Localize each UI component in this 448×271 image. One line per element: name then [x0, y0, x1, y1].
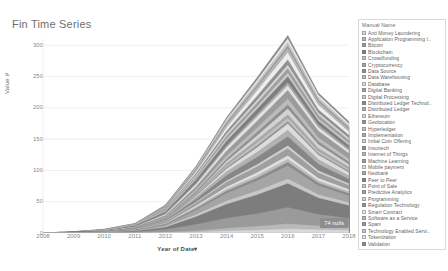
legend-swatch-icon	[362, 127, 366, 131]
legend-item-label: Anti Money Laundering	[368, 30, 420, 36]
legend-item-label: Database	[368, 81, 390, 87]
x-axis-tick-label[interactable]: 2014	[220, 233, 233, 239]
visualization-root: Fin Time Series Value # 0501001502002503…	[0, 0, 448, 271]
legend-swatch-icon	[362, 101, 366, 105]
legend-swatch-icon	[362, 114, 366, 118]
page-title: Fin Time Series	[12, 18, 91, 30]
legend-swatch-icon	[362, 88, 366, 92]
legend-item-label: Data Source	[368, 68, 396, 74]
legend-swatch-icon	[362, 120, 366, 124]
legend-item-label: Validation	[368, 241, 390, 247]
legend-swatch-icon	[362, 69, 366, 73]
chart-panel: Fin Time Series Value # 0501001502002503…	[0, 0, 355, 271]
sort-descending-icon[interactable]: ▾	[194, 246, 197, 252]
legend-swatch-icon	[362, 159, 366, 163]
legend-item-label: Software as a Service	[368, 215, 418, 221]
legend-item[interactable]: Validation	[361, 240, 443, 246]
legend-swatch-icon	[362, 165, 366, 169]
legend-swatch-icon	[362, 139, 366, 143]
legend-item-label: Technology Enabled Servi..	[368, 228, 430, 234]
legend-item-label: Internet of Things	[368, 151, 408, 157]
legend-item-label: Programming	[368, 196, 399, 202]
legend-items: Anti Money LaunderingApplication Program…	[361, 30, 443, 247]
legend-swatch-icon	[362, 50, 366, 54]
legend-swatch-icon	[362, 37, 366, 41]
legend-swatch-icon	[362, 190, 366, 194]
legend-item-label: Ethereum	[368, 113, 390, 119]
legend-item-label: Bitcoin	[368, 42, 383, 48]
x-axis-tick-label[interactable]: 2018	[342, 233, 355, 239]
x-axis-tick-label[interactable]: 2012	[159, 233, 172, 239]
legend-item-label: Machine Learning	[368, 158, 409, 164]
legend-item-label: Tokenization	[368, 234, 396, 240]
legend-item-label: Digital Banking	[368, 87, 402, 93]
x-axis-title-label: Year of Date	[157, 246, 194, 252]
legend-title: Manual Name	[362, 22, 443, 28]
legend-item-label: Crowdfunding	[368, 55, 399, 61]
legend-item-label: Initial Coin Offering	[368, 138, 411, 144]
plot-area[interactable]	[0, 33, 355, 233]
legend-swatch-icon	[362, 43, 366, 47]
area-series-group[interactable]	[43, 35, 349, 233]
legend-swatch-icon	[362, 184, 366, 188]
x-axis-tick-label[interactable]: 2017	[312, 233, 325, 239]
legend-item-label: Point of Sale	[368, 183, 397, 189]
x-axis-tick-label[interactable]: 2015	[251, 233, 264, 239]
legend-item[interactable]: Distributed Ledger Technol..	[361, 100, 443, 106]
legend-swatch-icon	[362, 63, 366, 67]
legend-swatch-icon	[362, 197, 366, 201]
legend-swatch-icon	[362, 133, 366, 137]
legend-item-label: Insurtech	[368, 145, 389, 151]
legend-card: Manual Name Anti Money LaunderingApplica…	[358, 19, 446, 250]
legend-swatch-icon	[362, 222, 366, 226]
x-axis-tick-label[interactable]: 2009	[67, 233, 80, 239]
legend-swatch-icon	[362, 229, 366, 233]
legend-item-label: Distributed Ledger	[368, 106, 410, 112]
legend-swatch-icon	[362, 171, 366, 175]
legend-swatch-icon	[362, 82, 366, 86]
legend-swatch-icon	[362, 75, 366, 79]
legend-item-label: Mobile payment	[368, 164, 404, 170]
legend-item-label: Cryptocurrency	[368, 62, 403, 68]
legend-item-label: Data Warehousing	[368, 74, 410, 80]
x-axis-tick-label[interactable]: 2010	[98, 233, 111, 239]
x-axis-tick-label[interactable]: 2008	[36, 233, 49, 239]
legend-swatch-icon	[362, 146, 366, 150]
legend-item-label: Spam	[368, 221, 381, 227]
stacked-area-chart[interactable]	[0, 33, 355, 233]
legend-swatch-icon	[362, 152, 366, 156]
legend-item-label: Hyperledger	[368, 126, 396, 132]
x-axis-tick-label[interactable]: 2011	[128, 233, 141, 239]
legend-item-label: Application Programming I..	[368, 36, 431, 42]
x-axis-tick-label[interactable]: 2013	[189, 233, 202, 239]
legend-item-label: Neobank	[368, 170, 388, 176]
legend-item-label: Regulation Technology	[368, 202, 420, 208]
legend-swatch-icon	[362, 107, 366, 111]
legend-swatch-icon	[362, 203, 366, 207]
legend-item-label: Digital Processing	[368, 94, 409, 100]
legend-swatch-icon	[362, 210, 366, 214]
legend-item-label: Smart Contract	[368, 209, 402, 215]
legend-swatch-icon	[362, 235, 366, 239]
legend-swatch-icon	[362, 31, 366, 35]
legend-swatch-icon	[362, 178, 366, 182]
legend-swatch-icon	[362, 95, 366, 99]
legend-swatch-icon	[362, 242, 366, 246]
legend-panel: Manual Name Anti Money LaunderingApplica…	[355, 0, 448, 271]
legend-item-label: Peer to Peer	[368, 177, 397, 183]
legend-item-label: Implementation	[368, 132, 403, 138]
status-badge[interactable]: 74 nulls	[320, 218, 348, 228]
legend-item-label: Predictive Analytics	[368, 189, 412, 195]
legend-swatch-icon	[362, 56, 366, 60]
legend-item-label: Geolocation	[368, 119, 395, 125]
x-axis-title[interactable]: Year of Date▾	[0, 245, 355, 252]
legend-swatch-icon	[362, 216, 366, 220]
legend-item[interactable]: Application Programming I..	[361, 36, 443, 42]
legend-item-label: Distributed Ledger Technol..	[368, 100, 432, 106]
x-axis-tick-label[interactable]: 2016	[281, 233, 294, 239]
legend-item-label: Blockchain	[368, 49, 393, 55]
